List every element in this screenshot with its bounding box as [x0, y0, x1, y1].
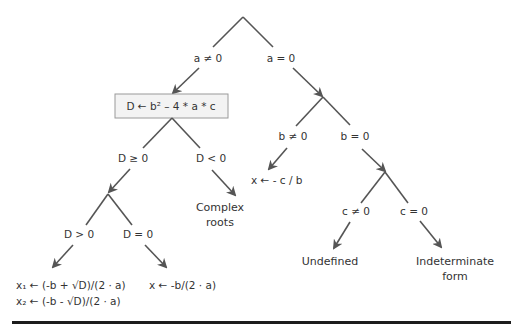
arrow-to-linear-result	[269, 148, 287, 169]
edge-dpos-left	[86, 194, 108, 225]
label-d-zero: D = 0	[123, 228, 153, 240]
result-complex-roots-line1: Complex	[196, 201, 245, 214]
discriminant-box: D ← b² – 4 * a * c	[115, 94, 228, 118]
discriminant-formula: D ← b² – 4 * a * c	[126, 100, 215, 112]
label-c-not-zero: c ≠ 0	[342, 205, 370, 217]
arrow-to-complex	[212, 170, 235, 195]
arrow-to-one-root	[145, 245, 166, 267]
arrow-to-undefined	[334, 222, 350, 248]
edge-d-left	[143, 118, 172, 148]
edge-root-right	[243, 17, 273, 47]
result-linear-root: x ← - c / b	[251, 174, 303, 186]
result-single-root: x ← -b/(2 · a)	[149, 279, 216, 291]
edge-b-left	[296, 97, 323, 126]
result-undefined: Undefined	[302, 255, 358, 268]
result-complex-roots-line2: roots	[206, 216, 234, 229]
label-c-zero: c = 0	[400, 205, 428, 217]
edge-root-left	[213, 17, 243, 47]
label-d-negative: D < 0	[196, 152, 226, 164]
result-indeterminate-line1: Indeterminate	[416, 255, 494, 268]
arrow-to-constant-node	[362, 149, 385, 171]
arrow-to-nonneg-node	[109, 169, 130, 192]
label-b-not-zero: b ≠ 0	[279, 130, 308, 142]
label-d-nonneg: D ≥ 0	[118, 152, 148, 164]
arrow-to-two-roots	[53, 245, 73, 267]
result-root-x2: x₂ ← (-b - √D)/(2 · a)	[16, 295, 121, 307]
label-d-positive: D > 0	[64, 228, 94, 240]
root-node	[213, 17, 273, 47]
arrow-to-indeterminate	[420, 221, 441, 247]
result-root-x1: x₁ ← (-b + √D)/(2 · a)	[16, 279, 126, 291]
label-a-zero: a = 0	[267, 52, 296, 64]
arrow-to-linear-node	[293, 68, 322, 96]
edge-c-left	[361, 172, 385, 203]
edge-dpos-right	[108, 194, 132, 225]
edge-c-right	[385, 172, 408, 203]
label-a-not-zero: a ≠ 0	[194, 52, 223, 64]
quadratic-decision-tree: a ≠ 0 a = 0 D ← b² – 4 * a * c D ≥ 0 D <…	[0, 0, 511, 325]
label-b-zero: b = 0	[341, 130, 370, 142]
edge-b-right	[323, 97, 350, 125]
result-indeterminate-line2: form	[442, 270, 468, 283]
edge-d-right	[172, 118, 200, 148]
bottom-divider	[12, 321, 511, 324]
arrow-to-discriminant	[173, 68, 199, 93]
